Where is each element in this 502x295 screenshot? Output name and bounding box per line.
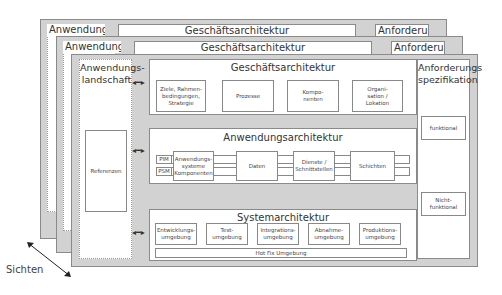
organisation-box: Organi- sation / Lokation <box>352 80 403 112</box>
business-label-back-2: Geschäftsarchitektur <box>134 41 372 55</box>
landscape-title: Anwendungs- landschaft <box>80 62 133 86</box>
psm-box: PSM <box>156 167 172 176</box>
test-environment-box: Test- umgebung <box>206 223 248 245</box>
development-environment-box: Entwicklungs- umgebung <box>155 223 197 245</box>
view-layer-front: Anwendungs- landschaft Referenzen ◂━▸ ◂━… <box>71 54 478 267</box>
requirements-label-back-2: Anforderungs <box>391 41 445 55</box>
application-landscape: Anwendungs- landschaft Referenzen <box>79 59 132 259</box>
requirements-specification: Anforderungs spezifikation funktional Ni… <box>417 59 470 259</box>
pim-box: PIM <box>156 155 172 164</box>
layers-box: Schichten <box>350 151 395 181</box>
application-architecture-panel: Anwendungsarchitektur PIM PSM Anwendungs… <box>149 128 417 184</box>
goals-box: Ziele, Rahmen- bedingungen, Strategie <box>156 80 206 112</box>
hotfix-environment-box: Hot Fix Umgebung <box>155 248 407 258</box>
business-architecture-title: Geschäftsarchitektur <box>150 62 416 74</box>
arrow-landscape-system: ◂━▸ <box>132 229 145 237</box>
arrow-landscape-business: ◂━▸ <box>132 79 145 87</box>
landscape-label-back-1: Anwendungs- <box>47 24 105 36</box>
references-box: Referenzen <box>85 130 127 212</box>
services-interfaces-box: Dienste / Schnittstellen <box>293 151 335 181</box>
arrow-landscape-application: ◂━▸ <box>132 147 145 155</box>
components-box: Kompo- nenten <box>287 80 339 112</box>
views-label: Sichten <box>6 264 43 275</box>
application-systems-box: Anwendungs- systeme Komponenten <box>173 151 214 181</box>
application-architecture-title: Anwendungsarchitektur <box>150 132 416 144</box>
production-environment-box: Produktions- umgebung <box>359 223 401 245</box>
business-architecture-panel: Geschäftsarchitektur Ziele, Rahmen- bedi… <box>149 59 417 115</box>
data-box: Daten <box>236 151 278 181</box>
system-architecture-panel: Systemarchitektur Entwicklungs- umgebung… <box>149 209 417 261</box>
processes-box: Prozesse <box>222 80 274 112</box>
landscape-label-back-2: Anwendungs- <box>63 41 121 53</box>
non-functional-box: Nicht- funktional <box>421 192 466 216</box>
acceptance-environment-box: Abnahme- umgebung <box>308 223 350 245</box>
functional-box: funktional <box>421 116 466 140</box>
requirements-title: Anforderungs spezifikation <box>418 62 469 86</box>
integration-environment-box: Integrations- umgebung <box>257 223 299 245</box>
